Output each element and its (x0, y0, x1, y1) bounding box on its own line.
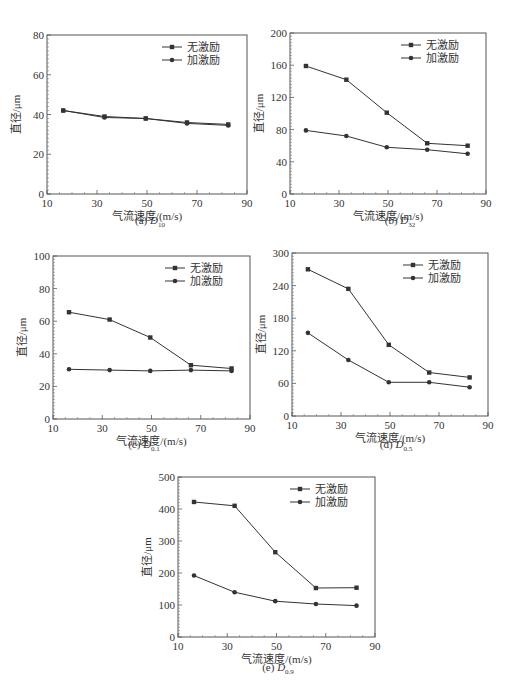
y-tick-label: 120 (271, 91, 288, 103)
series-no-excitation (192, 500, 359, 590)
y-tick-label: 80 (39, 283, 51, 295)
x-tick-label: 50 (385, 419, 397, 431)
legend-label: 无激励 (426, 38, 459, 51)
caption-a-var: D (150, 214, 158, 226)
y-tick-label: 400 (159, 503, 176, 515)
y-tick-label: 300 (273, 247, 290, 259)
x-tick-label: 70 (192, 197, 204, 209)
y-tick-label: 40 (33, 109, 45, 121)
circle-marker (314, 602, 319, 607)
square-marker (411, 263, 415, 267)
legend-label: 加激励 (426, 51, 459, 64)
square-marker (467, 375, 471, 379)
x-tick-label: 90 (481, 197, 493, 209)
x-tick-label: 70 (320, 640, 332, 652)
circle-marker (425, 147, 430, 152)
legend-label: 无激励 (187, 40, 220, 53)
square-marker (232, 504, 236, 508)
x-tick-label: 10 (173, 640, 185, 652)
y-tick-label: 200 (159, 567, 176, 579)
y-tick-label: 240 (273, 280, 290, 292)
square-marker (306, 267, 310, 271)
legend-label: 无激励 (315, 482, 348, 495)
y-tick-label: 120 (273, 345, 290, 357)
x-tick-label: 30 (92, 197, 104, 209)
y-axis-label: 直径/μm (140, 537, 153, 577)
caption-c-var: D (143, 438, 151, 450)
circle-marker (148, 369, 153, 374)
caption-d-sub: 0.5 (403, 445, 412, 453)
x-tick-label: 30 (97, 422, 109, 434)
circle-marker (143, 116, 148, 121)
y-tick-label: 100 (34, 250, 51, 262)
circle-marker (386, 380, 391, 385)
circle-marker (354, 603, 359, 608)
y-tick-label: 60 (33, 69, 45, 81)
circle-marker (192, 573, 197, 578)
legend: 无激励加激励 (162, 40, 220, 66)
circle-marker (298, 500, 303, 505)
y-tick-label: 20 (39, 380, 51, 392)
series-with-excitation (304, 128, 470, 156)
x-tick-label: 50 (142, 197, 154, 209)
y-tick-label: 80 (33, 29, 45, 41)
circle-marker (304, 128, 309, 133)
caption-e-var: D (277, 661, 285, 673)
square-marker (314, 586, 318, 590)
series-no-excitation (304, 64, 470, 148)
square-marker (465, 144, 469, 148)
y-tick-label: 200 (271, 27, 288, 39)
caption-c-prefix: (c) (128, 438, 140, 450)
square-marker (385, 110, 389, 114)
y-tick-label: 20 (33, 148, 45, 160)
square-marker (387, 343, 391, 347)
caption-d-prefix: (d) (380, 438, 393, 450)
y-tick-label: 60 (39, 315, 51, 327)
circle-marker (427, 380, 432, 385)
caption-a-prefix: (a) (135, 214, 147, 226)
caption-d: (d) D0.5 (336, 438, 456, 453)
circle-marker (467, 385, 472, 390)
circle-marker (185, 121, 190, 126)
circle-marker (107, 368, 112, 373)
y-tick-label: 80 (276, 124, 288, 136)
x-tick-label: 10 (48, 422, 60, 434)
circle-marker (173, 279, 178, 284)
chart-c: 0204060801001030507090气流速度/(m/s)直径/μm无激励… (15, 250, 256, 448)
square-marker (189, 363, 193, 367)
y-axis-label: 直径/μm (9, 94, 22, 134)
square-marker (148, 335, 152, 339)
y-tick-label: 500 (159, 471, 176, 483)
x-tick-label: 50 (146, 422, 158, 434)
legend: 无激励加激励 (165, 261, 223, 287)
square-marker (107, 317, 111, 321)
square-marker (427, 370, 431, 374)
x-tick-label: 90 (245, 422, 257, 434)
caption-b: (b) D32 (340, 214, 460, 229)
chart-e: 01002003004005001030507090气流速度/(m/s)直径/μ… (140, 471, 381, 666)
circle-marker (465, 151, 470, 156)
square-marker (192, 500, 196, 504)
y-tick-label: 180 (273, 312, 290, 324)
legend-label: 加激励 (187, 53, 220, 66)
square-marker (304, 64, 308, 68)
circle-marker (411, 276, 416, 281)
square-marker (409, 43, 413, 47)
x-tick-label: 30 (336, 419, 348, 431)
square-marker (298, 487, 302, 491)
caption-c-sub: 0.1 (151, 445, 160, 453)
legend: 无激励加激励 (290, 482, 348, 508)
y-tick-label: 60 (278, 377, 290, 389)
legend-label: 无激励 (190, 261, 223, 274)
x-tick-label: 70 (195, 422, 207, 434)
series-with-excitation (306, 331, 472, 390)
series-with-excitation (61, 108, 231, 128)
x-tick-label: 70 (434, 419, 446, 431)
circle-marker (232, 590, 237, 595)
circle-marker (226, 123, 231, 128)
circle-marker (189, 368, 194, 373)
x-tick-label: 90 (483, 419, 495, 431)
caption-e: (e) D0.9 (218, 661, 338, 676)
x-tick-label: 50 (383, 197, 395, 209)
square-marker (425, 141, 429, 145)
